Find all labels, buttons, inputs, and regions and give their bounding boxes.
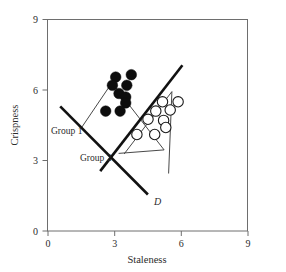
- data-point-open: [151, 106, 161, 116]
- x-tick-label-3: 9: [246, 238, 251, 249]
- y-tick-label-0: 0: [33, 226, 38, 237]
- x-axis-ticks: [48, 231, 248, 236]
- x-tick-label-0: 0: [46, 238, 51, 249]
- plot-canvas: 0 3 6 9 0 3 6 9 Staleness Crispness: [0, 0, 286, 272]
- data-point-filled: [100, 106, 111, 117]
- y-tick-label-2: 6: [33, 85, 38, 96]
- data-point-filled: [115, 106, 126, 117]
- x-axis-tick-labels: 0 3 6 9: [46, 238, 251, 249]
- perpendicular-projection-axis: [60, 106, 148, 194]
- data-point-open: [161, 122, 171, 132]
- x-tick-label-1: 3: [112, 238, 117, 249]
- x-tick-label-2: 6: [179, 238, 184, 249]
- data-point-filled: [126, 69, 137, 80]
- y-axis-tick-labels: 0 3 6 9: [33, 14, 38, 237]
- y-axis-ticks: [43, 20, 48, 232]
- y-tick-label-1: 3: [33, 155, 38, 166]
- y-tick-label-3: 9: [33, 14, 38, 25]
- data-point-open: [150, 129, 160, 139]
- data-point-open: [173, 97, 183, 107]
- group-2-label: Group 2: [80, 153, 112, 163]
- data-point-open: [165, 105, 175, 115]
- data-point-open: [157, 97, 167, 107]
- series-group-1-points: [100, 69, 136, 116]
- y-axis-title: Crispness: [9, 105, 20, 146]
- data-point-open: [132, 129, 142, 139]
- scatter-plot-figure: 0 3 6 9 0 3 6 9 Staleness Crispness: [0, 0, 286, 272]
- x-axis-title: Staleness: [127, 254, 166, 265]
- data-point-filled: [122, 80, 133, 91]
- discriminant-label: D: [153, 196, 162, 207]
- data-point-open: [143, 114, 153, 124]
- group-1-label: Group 1: [51, 126, 83, 136]
